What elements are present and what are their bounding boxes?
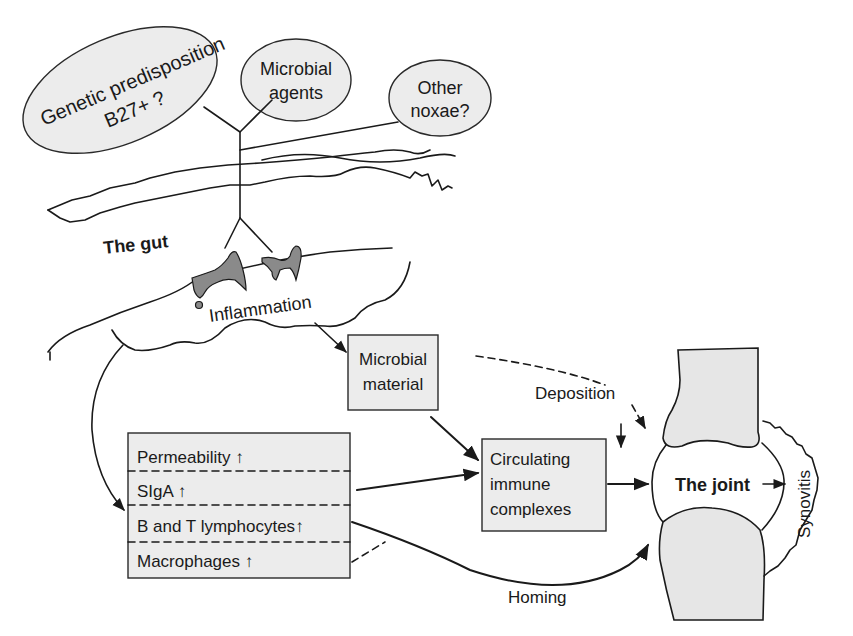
microbial-agents-line2: agents: [269, 83, 323, 103]
synovitis-label: Synovitis: [795, 470, 814, 538]
microbial-agents-line1: Microbial: [260, 59, 332, 79]
arrow-siga-to-complexes: [357, 473, 478, 490]
svg-text:SIgA ↑: SIgA ↑: [137, 482, 186, 501]
immune-complexes-line1: Circulating: [490, 450, 570, 469]
other-noxae-line2: noxae?: [410, 101, 469, 121]
microbial-material-box: Microbial material: [348, 335, 438, 410]
svg-text:Permeability ↑: Permeability ↑: [137, 448, 244, 467]
up-arrow-icon: ↑: [295, 517, 304, 536]
gut-change-macrophages: Macrophages ↑: [137, 552, 253, 571]
joint-illustration: The joint Synovitis: [652, 348, 818, 620]
gut-label: The gut: [102, 231, 169, 258]
homing-label: Homing: [508, 588, 567, 607]
gut-changes-box: Permeability ↑ SIgA ↑ B and T lymphocyte…: [128, 433, 350, 578]
reactive-arthritis-pathogenesis-diagram: Genetic predisposition B27+ ? Microbial …: [0, 0, 853, 636]
deposition-label: Deposition: [535, 384, 615, 403]
gut-change-permeability: Permeability ↑: [137, 448, 244, 467]
dashed-deposition-curve: [476, 356, 605, 385]
gut-change-lymphocytes: B and T lymphocytes↑: [137, 517, 304, 536]
immune-complexes-box: Circulating immune complexes: [482, 439, 606, 531]
up-arrow-icon: ↑: [178, 482, 187, 501]
other-noxae-line1: Other: [417, 78, 462, 98]
dashed-macrophages-line: [352, 542, 385, 562]
oval-genetic-predisposition: Genetic predisposition B27+ ?: [4, 1, 235, 179]
up-arrow-icon: ↑: [235, 448, 244, 467]
joint-label: The joint: [675, 475, 750, 495]
svg-text:Macrophages ↑: Macrophages ↑: [137, 552, 253, 571]
gut-change-siga: SIgA ↑: [137, 482, 186, 501]
microbial-material-line2: material: [363, 375, 423, 394]
arrow-gut-to-changes: [92, 345, 124, 510]
arrow-inflammation-to-microbial-material: [315, 323, 346, 352]
immune-complexes-line3: complexes: [490, 500, 571, 519]
immune-complexes-line2: immune: [490, 475, 550, 494]
arrow-material-to-complexes: [431, 417, 478, 460]
oval-microbial-agents: Microbial agents: [241, 39, 351, 121]
dashed-deposition-arrow: [632, 405, 645, 428]
microbial-material-line1: Microbial: [359, 350, 427, 369]
oval-other-noxae: Other noxae?: [389, 60, 491, 136]
svg-text:B and T lymphocytes↑: B and T lymphocytes↑: [137, 517, 304, 536]
up-arrow-icon: ↑: [245, 552, 254, 571]
